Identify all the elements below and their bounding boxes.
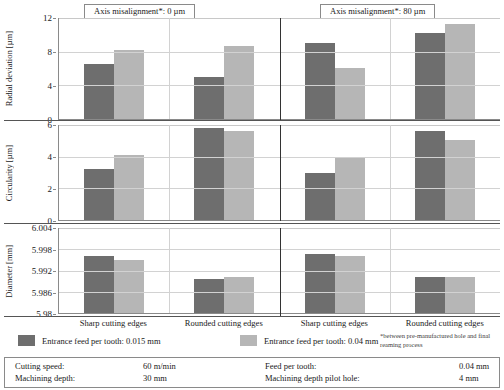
y-tick-mark (53, 293, 56, 294)
category-separator (169, 18, 170, 119)
bar-group (169, 125, 279, 220)
category-separator (169, 228, 170, 313)
parameter-value: 30 mm (143, 372, 167, 385)
y-tick-mark (53, 18, 56, 19)
bar (445, 24, 475, 119)
y-tick-label: 8 (48, 47, 53, 57)
y-tick-label: 2 (48, 184, 53, 194)
y-tick-label: 6.004 (32, 223, 52, 233)
bar (335, 256, 365, 313)
chart-separator-2 (4, 223, 500, 224)
bar (224, 46, 254, 119)
y-tick-mark (53, 228, 56, 229)
x-category-label: Rounded cutting edges (169, 315, 280, 331)
panel-divider-radial (280, 18, 281, 120)
bar (224, 131, 254, 220)
category-separator (390, 125, 391, 220)
y-tick-label: 6 (48, 120, 53, 130)
parameter-row-pilot-hole: Machining depth pilot hole: 4 mm (255, 372, 499, 385)
bar (84, 64, 114, 119)
bar (335, 68, 365, 119)
legend-swatch-dark-icon (18, 335, 35, 346)
y-tick-mark (53, 125, 56, 126)
bar (415, 131, 445, 220)
y-tick-mark (53, 221, 56, 222)
chart-circularity: Circularity [µm] 0246 (0, 125, 504, 221)
bar (305, 254, 335, 313)
category-separator (390, 228, 391, 313)
bar-group (390, 125, 500, 220)
bar (445, 140, 475, 220)
bar (194, 77, 224, 119)
y-tick-mark (53, 157, 56, 158)
legend-item-series1: Entrance feed per tooth: 0.015 mm (18, 335, 161, 346)
y-tick-label: 12 (43, 13, 52, 23)
y-tick-label: 4 (48, 152, 53, 162)
legend-label-series1: Entrance feed per tooth: 0.015 mm (42, 336, 161, 346)
chart-radial-deviation: Radial deviation [µm] 04812 (0, 18, 504, 120)
panel-title-left: Axis misalignment*: 0 µm (84, 4, 195, 19)
legend-item-series2: Entrance feed per tooth: 0.04 mm (240, 335, 378, 346)
parameter-key: Machining depth pilot hole: (265, 372, 360, 385)
legend-footnote: *between pre-manufactured hole and final… (380, 332, 504, 350)
parameter-table: Cutting speed: 60 m/min Machining depth:… (4, 357, 500, 388)
y-tick-label: 4 (48, 81, 53, 91)
bar-group (59, 18, 169, 119)
panel-title-right: Axis misalignment*: 80 µm (320, 4, 435, 19)
bar (415, 33, 445, 119)
y-ticks-diameter: 5.985.9865.9925.9986.004 (14, 228, 56, 314)
x-axis-categories: Sharp cutting edges Rounded cutting edge… (58, 315, 500, 331)
bar-group (59, 125, 169, 220)
parameter-row-machining-depth: Machining depth: 30 mm (5, 372, 255, 385)
panel-divider-circularity (280, 125, 281, 221)
x-category-label: Sharp cutting edges (58, 315, 169, 331)
panel-divider-diameter (280, 228, 281, 316)
y-tick-label: 5.986 (32, 288, 52, 298)
x-category-label: Sharp cutting edges (279, 315, 390, 331)
legend-swatch-light-icon (240, 335, 257, 346)
plot-area-radial (58, 18, 500, 120)
legend-label-series2: Entrance feed per tooth: 0.04 mm (264, 336, 378, 346)
bar-group (390, 18, 500, 119)
y-tick-mark (53, 314, 56, 315)
bar (224, 277, 254, 313)
plot-area-diameter (58, 228, 500, 314)
category-separator (169, 125, 170, 220)
bar-group (280, 18, 390, 119)
x-category-label: Rounded cutting edges (390, 315, 501, 331)
legend: Entrance feed per tooth: 0.015 mm Entran… (4, 334, 504, 354)
figure-root: Axis misalignment*: 0 µm Axis misalignme… (0, 0, 504, 390)
bar (305, 173, 335, 221)
parameter-column-left: Cutting speed: 60 m/min Machining depth:… (5, 358, 255, 387)
y-tick-label: 5.98 (36, 309, 52, 319)
y-tick-mark (53, 271, 56, 272)
bar (445, 277, 475, 313)
bar (84, 169, 114, 220)
parameter-key: Machining depth: (15, 372, 75, 385)
y-tick-mark (53, 189, 56, 190)
category-separator (390, 18, 391, 119)
bar-group (280, 125, 390, 220)
bar (415, 277, 445, 313)
y-tick-label: 5.992 (32, 266, 52, 276)
bar-group (169, 18, 279, 119)
y-tick-mark (53, 86, 56, 87)
bar (84, 256, 114, 313)
y-tick-label: 5.998 (32, 245, 52, 255)
chart-separator-1 (4, 120, 500, 121)
parameter-column-right: Feed per tooth: 0.04 mm Machining depth … (255, 358, 499, 387)
y-tick-mark (53, 250, 56, 251)
parameter-value: 4 mm (459, 372, 479, 385)
chart-diameter: Diameter [mm] 5.985.9865.9925.9986.004 (0, 228, 504, 314)
y-ticks-circularity: 0246 (14, 125, 56, 221)
y-tick-mark (53, 52, 56, 53)
bar (305, 43, 335, 119)
bar (114, 260, 144, 313)
bar (194, 279, 224, 313)
y-ticks-radial: 04812 (14, 18, 56, 120)
plot-area-circularity (58, 125, 500, 221)
bar (194, 128, 224, 220)
